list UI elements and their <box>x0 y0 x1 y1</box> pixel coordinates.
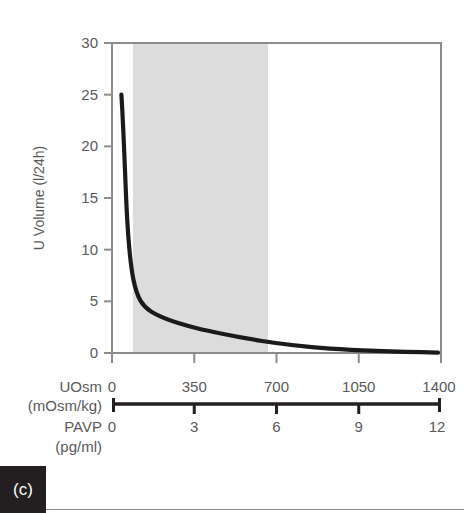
y-axis-title: U Volume (l/24h) <box>31 146 47 250</box>
pavp-axis-units: (pg/ml) <box>55 438 102 455</box>
pavp-tick-label-12: 12 <box>429 418 446 435</box>
y-tick-label-15: 15 <box>81 189 98 206</box>
y-tick-label-30: 30 <box>81 34 98 51</box>
pavp-tick-label-3: 3 <box>190 418 198 435</box>
uosm-axis-name: UOsm <box>60 378 103 395</box>
uosm-tick-label-1050: 1050 <box>342 378 375 395</box>
y-tick-label-20: 20 <box>81 137 98 154</box>
panel-label-badge: (c) <box>0 466 46 513</box>
panel-label-text: (c) <box>13 481 33 498</box>
figure-panel-c: 30 25 20 15 10 5 0 U Volume (l/24h) 0 35… <box>0 0 464 513</box>
uosm-tick-label-350: 350 <box>182 378 207 395</box>
pavp-tick-label-6: 6 <box>272 418 280 435</box>
y-axis-ticks <box>104 43 112 353</box>
uosm-tick-label-700: 700 <box>264 378 289 395</box>
y-axis-tick-labels: 30 25 20 15 10 5 0 <box>81 34 98 361</box>
pavp-tick-label-9: 9 <box>355 418 363 435</box>
bottom-divider <box>46 509 464 510</box>
uosm-tick-label-1400: 1400 <box>422 378 455 395</box>
pavp-tick-label-0: 0 <box>108 418 116 435</box>
y-tick-label-25: 25 <box>81 86 98 103</box>
y-tick-label-5: 5 <box>90 292 98 309</box>
x-axis-pavp-tick-labels: 0 3 6 9 12 <box>108 418 446 435</box>
y-tick-label-0: 0 <box>90 344 98 361</box>
x-axis-uosm-ticks <box>112 353 441 363</box>
uosm-axis-units: (mOsm/kg) <box>28 397 102 414</box>
pavp-axis-ticks <box>114 398 440 414</box>
x-axis-uosm-tick-labels: 0 350 700 1050 1400 <box>108 378 456 395</box>
urine-volume-osmolality-chart: 30 25 20 15 10 5 0 U Volume (l/24h) 0 35… <box>0 0 464 513</box>
shaded-normal-range-band <box>133 43 268 353</box>
y-tick-label-10: 10 <box>81 241 98 258</box>
pavp-axis-name: PAVP <box>64 418 102 435</box>
uosm-tick-label-0: 0 <box>108 378 116 395</box>
